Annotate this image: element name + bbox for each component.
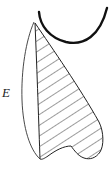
label-e: E: [2, 86, 10, 99]
hatched-region: [0, 0, 112, 175]
u-curve: [39, 8, 107, 43]
diagram-svg: [0, 0, 112, 175]
diagram-canvas: E: [0, 0, 112, 175]
